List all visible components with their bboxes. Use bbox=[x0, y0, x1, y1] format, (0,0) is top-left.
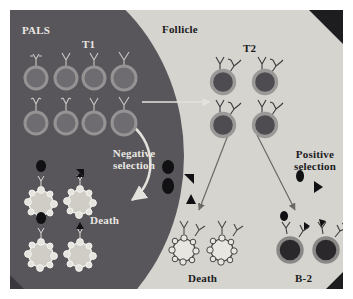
arrow-t2-to-b2 bbox=[257, 135, 295, 210]
outcome-label-death-pals: Death bbox=[90, 214, 119, 226]
region-label-follicle: Follicle bbox=[162, 23, 198, 35]
outcome-label-death-follicle: Death bbox=[188, 272, 217, 284]
illustration-panel: PALS Follicle T1 T2 Negative selection P… bbox=[10, 10, 343, 289]
apoptotic-pals-cells bbox=[18, 175, 123, 285]
antigen-cluster-follicle bbox=[298, 178, 338, 200]
apoptotic-cell bbox=[207, 221, 243, 265]
t1-cell bbox=[55, 53, 77, 89]
t1-cell bbox=[25, 98, 47, 134]
t1-cell bbox=[83, 53, 105, 89]
t1-cell bbox=[112, 97, 136, 135]
t2-cell-row-1 bbox=[206, 53, 296, 99]
antigen-cluster-pals bbox=[160, 172, 206, 216]
t1-cell bbox=[83, 98, 105, 134]
antigen-shape bbox=[314, 181, 323, 193]
corner-wedge-bottom-right bbox=[326, 272, 343, 289]
b2-cell bbox=[278, 211, 310, 262]
stage-label-t2: T2 bbox=[243, 42, 256, 54]
region-label-pals: PALS bbox=[22, 24, 50, 36]
t1-cell bbox=[25, 54, 47, 89]
t1-cell-row-2 bbox=[28, 95, 148, 139]
outcome-label-b2: B-2 bbox=[295, 272, 312, 284]
t2-cell bbox=[212, 100, 242, 137]
apoptotic-follicle-cells bbox=[162, 218, 247, 276]
antigen-shape bbox=[186, 194, 196, 204]
t2-cell bbox=[254, 57, 284, 94]
b2-cells bbox=[268, 218, 343, 274]
figure-root: PALS Follicle T1 T2 Negative selection P… bbox=[0, 0, 353, 299]
t2-cell bbox=[212, 57, 242, 94]
corner-wedge-top-right bbox=[309, 10, 343, 44]
t2-cell-row-2 bbox=[206, 96, 296, 142]
t1-cell-row-1 bbox=[28, 50, 148, 94]
stage-label-t1: T1 bbox=[82, 38, 95, 50]
t1-cell bbox=[55, 98, 77, 134]
process-label-negative-selection: Negative selection bbox=[98, 147, 170, 171]
process-label-positive-selection: Positive selection bbox=[282, 148, 343, 172]
b2-cell bbox=[314, 219, 343, 262]
apoptotic-cell bbox=[25, 160, 97, 271]
t2-cell bbox=[254, 100, 284, 137]
antigen-shape bbox=[162, 178, 174, 194]
t1-cell bbox=[112, 52, 136, 90]
antigen-shape bbox=[184, 174, 194, 184]
apoptotic-cell bbox=[169, 221, 205, 265]
